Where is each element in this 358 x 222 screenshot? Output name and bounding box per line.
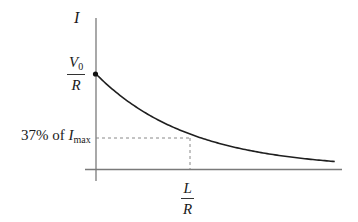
y-axis-label: I (74, 10, 79, 26)
v0-subscript: 0 (78, 61, 83, 72)
initial-value-dot (93, 71, 98, 76)
fraction-bar (67, 74, 85, 75)
percent-max-label: 37% of Imax (21, 128, 91, 145)
v0-letter: V (69, 54, 78, 70)
decay-curve (96, 74, 335, 162)
decay-plot (0, 0, 358, 222)
v0-numerator: V0 (67, 55, 85, 72)
fraction-bar (181, 198, 194, 199)
initial-value-label: V0 R (67, 55, 85, 93)
v0-denominator: R (70, 78, 83, 93)
imax-subscript: max (74, 134, 91, 145)
time-constant-label: L R (181, 181, 194, 217)
lr-numerator: L (181, 181, 193, 196)
lr-denominator: R (181, 202, 194, 217)
percent-text: 37% of (21, 127, 69, 143)
